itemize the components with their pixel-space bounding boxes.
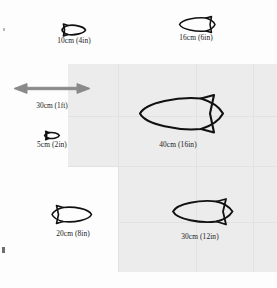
fish-40cm-icon [118, 94, 238, 134]
fish-30cm-label: 30cm (12in) [145, 232, 255, 242]
fish-20cm-label: 20cm (8in) [28, 229, 118, 239]
fish-20cm-icon [28, 205, 118, 224]
fish-entry-30cm: 30cm (12in) [145, 198, 255, 242]
fish-5cm-label: 5cm (2in) [14, 140, 90, 150]
double-headed-arrow-icon [14, 83, 90, 94]
fish-size-chart: 10cm (4in) 16cm (6in) 30cm (1ft) [0, 0, 277, 288]
fish-16cm-label: 16cm (6in) [155, 33, 237, 43]
fish-entry-5cm: 5cm (2in) [14, 131, 90, 150]
fish-entry-40cm: 40cm (16in) [118, 94, 238, 150]
fish-5cm-icon [14, 131, 90, 140]
fish-30cm-icon [145, 198, 255, 226]
scale-reference: 30cm (1ft) [14, 83, 90, 111]
scale-label: 30cm (1ft) [14, 101, 90, 111]
fish-16cm-icon [155, 16, 237, 33]
fish-40cm-label: 40cm (16in) [118, 140, 238, 150]
gridline-horizontal [68, 166, 277, 167]
fish-entry-16cm: 16cm (6in) [155, 16, 237, 43]
fish-entry-10cm: 10cm (4in) [34, 24, 114, 46]
fish-10cm-label: 10cm (4in) [34, 36, 114, 46]
scan-speckle [2, 247, 5, 253]
fish-entry-20cm: 20cm (8in) [28, 205, 118, 239]
fish-10cm-icon [34, 24, 114, 36]
scan-speckle [3, 28, 5, 31]
